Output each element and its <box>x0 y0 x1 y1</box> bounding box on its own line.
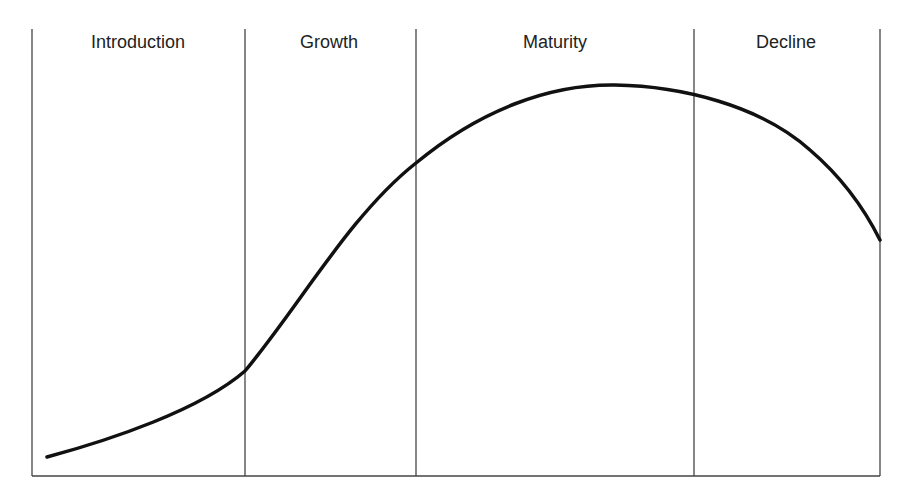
stage-label-introduction: Introduction <box>91 31 185 53</box>
product-life-cycle-diagram: Introduction Growth Maturity Decline <box>0 0 911 500</box>
stage-label-maturity: Maturity <box>523 31 587 53</box>
sales-curve <box>47 85 880 457</box>
stage-label-growth: Growth <box>300 31 358 53</box>
stage-label-decline: Decline <box>756 31 816 53</box>
diagram-canvas <box>0 0 911 500</box>
